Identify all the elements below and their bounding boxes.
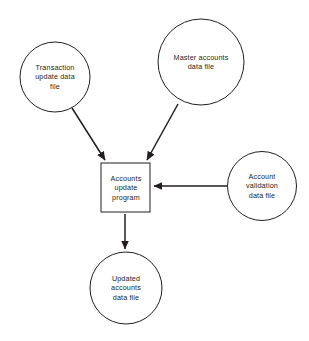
edge-transaction-to-program [72,108,105,160]
node-accounts-update-program[interactable] [101,163,150,212]
node-account-validation-data-file[interactable] [228,152,297,221]
node-updated-accounts-data-file[interactable] [90,252,162,324]
data-flow-diagram: Transaction update data file Master acco… [0,0,309,341]
diagram-canvas [0,0,309,341]
node-master-accounts-data-file[interactable] [158,19,244,105]
edge-master-to-program [147,104,178,160]
node-transaction-update-data-file[interactable] [20,42,90,112]
